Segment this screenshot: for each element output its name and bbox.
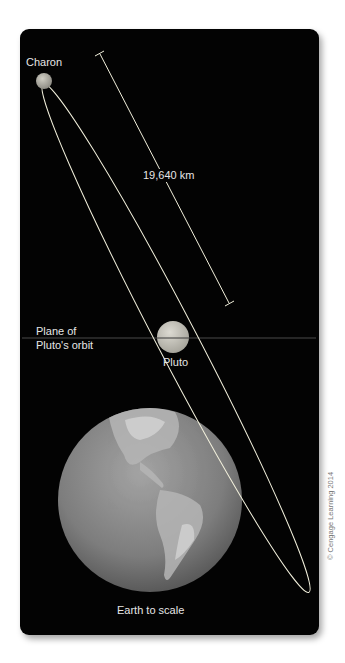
copyright-notice: © Cengage Learning 2014 — [326, 480, 335, 560]
charon-label: Charon — [26, 56, 62, 69]
earth-label: Earth to scale — [117, 604, 184, 617]
pluto-body — [157, 321, 189, 353]
plane-label-line1: Plane of — [36, 325, 76, 338]
distance-label: 19,640 km — [142, 169, 195, 182]
pluto-label: Pluto — [163, 356, 188, 369]
charon-body — [36, 73, 52, 89]
plane-label-line2: Pluto's orbit — [36, 339, 93, 352]
earth-globe — [58, 407, 242, 592]
